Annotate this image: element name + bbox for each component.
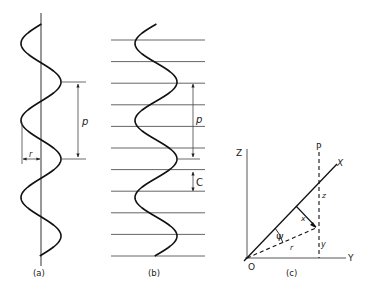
caption-b: (b) xyxy=(148,268,160,278)
horizontal-lines xyxy=(111,40,205,256)
point-p-label: P xyxy=(316,142,322,152)
y-label: y xyxy=(320,240,326,249)
helix-curve xyxy=(135,24,177,256)
pitch-label: p xyxy=(195,114,202,125)
x-arrowhead xyxy=(310,222,316,228)
helix-diagram: p r (a) p C (b) Z Y X P xyxy=(0,0,366,291)
z-label: z xyxy=(321,191,327,200)
x-axis-label: X xyxy=(336,158,344,168)
x-label: x xyxy=(300,214,306,223)
panel-a: p r (a) xyxy=(21,13,88,278)
caption-a: (a) xyxy=(33,268,45,278)
panel-b: p C (b) xyxy=(111,24,205,278)
caption-c: (c) xyxy=(286,268,297,278)
angle-psi-label: Ψ xyxy=(276,233,284,243)
pitch-label: p xyxy=(81,116,88,127)
origin-label: O xyxy=(248,262,255,272)
y-axis-label: Y xyxy=(347,253,354,263)
r-label: r xyxy=(290,243,294,252)
radius-label: r xyxy=(29,150,33,159)
spacing-label: C xyxy=(196,177,203,188)
panel-c: Z Y X P O Ψ r x y z (c) xyxy=(236,142,354,278)
z-axis-label: Z xyxy=(236,148,242,158)
